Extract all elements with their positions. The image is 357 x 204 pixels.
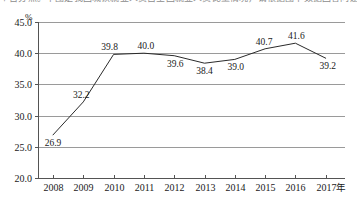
- y-tick-marks-group: [35, 23, 38, 179]
- x-tick-label: 2008: [44, 182, 64, 193]
- data-series-line: [53, 43, 326, 135]
- x-tick-labels-group: 2008200920102011201220132014201520162017: [44, 182, 337, 193]
- x-tick-label: 2012: [165, 182, 185, 193]
- data-point-label: 32.2: [73, 90, 90, 100]
- y-tick-label: 25.0: [15, 142, 33, 153]
- line-chart: 45.040.035.030.025.020.0 % 2008200920102…: [0, 0, 357, 204]
- data-point-label: 26.9: [45, 138, 62, 148]
- x-axis-suffix-label: 年: [336, 182, 346, 193]
- gridlines-group: [38, 23, 345, 148]
- data-point-labels-group: 26.932.239.840.039.638.439.040.741.639.2: [45, 31, 337, 148]
- data-point-label: 39.0: [227, 62, 244, 72]
- data-point-label: 40.7: [256, 37, 273, 47]
- x-tick-label: 2016: [286, 182, 306, 193]
- x-tick-label: 2010: [105, 182, 125, 193]
- data-point-label: 39.2: [319, 61, 336, 71]
- data-point-label: 38.4: [196, 66, 213, 76]
- y-tick-label: 35.0: [15, 79, 33, 90]
- data-point-label: 41.6: [288, 31, 305, 41]
- x-tick-label: 2011: [135, 182, 155, 193]
- y-tick-labels-group: 45.040.035.030.025.020.0: [15, 17, 33, 184]
- data-point-label: 40.0: [138, 41, 155, 51]
- x-tick-label: 2015: [256, 182, 276, 193]
- x-tick-label: 2009: [74, 182, 94, 193]
- y-tick-label: 30.0: [15, 111, 33, 122]
- chart-canvas: 45.040.035.030.025.020.0 % 2008200920102…: [0, 0, 357, 204]
- x-tick-label: 2017: [317, 182, 337, 193]
- x-tick-marks-group: [54, 175, 327, 178]
- x-tick-label: 2013: [196, 182, 216, 193]
- data-point-label: 39.6: [167, 59, 184, 69]
- x-tick-label: 2014: [226, 182, 246, 193]
- y-tick-label: 40.0: [15, 48, 33, 59]
- data-point-label: 39.8: [101, 42, 118, 52]
- y-tick-label: 20.0: [15, 173, 33, 184]
- y-axis-unit-label: %: [25, 12, 33, 22]
